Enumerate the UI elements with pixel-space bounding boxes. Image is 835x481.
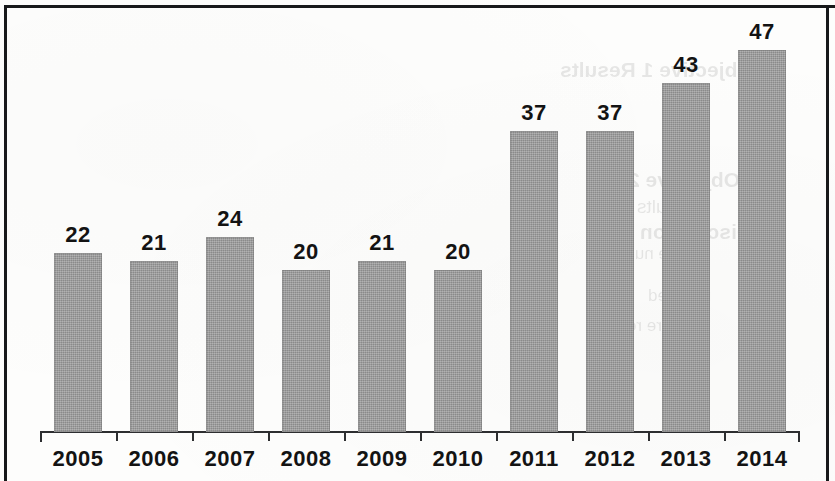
x-axis-tick (572, 432, 574, 441)
bar-value-label: 20 (418, 239, 498, 265)
bar-value-label: 24 (190, 206, 270, 232)
x-axis-tick (496, 432, 498, 441)
x-axis-tick (344, 432, 346, 441)
x-axis-tick (724, 432, 726, 441)
x-axis-tick (648, 432, 650, 441)
bar-value-label: 37 (494, 100, 574, 126)
bar (662, 83, 710, 432)
bar (510, 131, 558, 432)
bar-value-label: 21 (114, 230, 194, 256)
x-axis-tick (268, 432, 270, 441)
plot-area: 22212420212037374347 2005200620072008200… (0, 0, 835, 481)
bar (206, 237, 254, 432)
bar-value-label: 22 (38, 222, 118, 248)
bar-value-label: 47 (722, 19, 802, 45)
x-axis-tick (420, 432, 422, 441)
bar (738, 50, 786, 432)
bar (282, 270, 330, 433)
bar (434, 270, 482, 433)
bar (130, 261, 178, 432)
bar-value-label: 37 (570, 100, 650, 126)
x-axis-right-cap (798, 431, 800, 442)
bar-value-label: 20 (266, 239, 346, 265)
x-axis-label: 2014 (717, 446, 807, 472)
x-axis-tick (116, 432, 118, 441)
x-axis-tick (192, 432, 194, 441)
bar (54, 253, 102, 432)
bar (358, 261, 406, 432)
bar-value-label: 21 (342, 230, 422, 256)
x-axis-left-cap (40, 431, 42, 442)
bar-value-label: 43 (646, 52, 726, 78)
bar (586, 131, 634, 432)
bar-chart-figure: Objective 1 Results Objective 2 Results … (0, 0, 835, 481)
